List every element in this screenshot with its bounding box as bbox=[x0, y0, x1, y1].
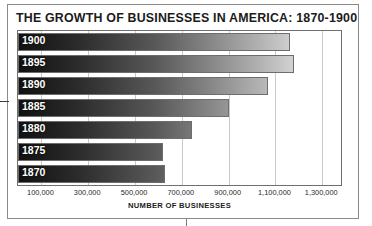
chart-container: THE GROWTH OF BUSINESSES IN AMERICA: 187… bbox=[7, 4, 359, 219]
x-tick-label: 700,000 bbox=[167, 188, 194, 197]
bar-gradient-fill bbox=[19, 100, 229, 116]
bottom-pointer-mark bbox=[186, 219, 187, 226]
bar-row: 1875 bbox=[18, 141, 341, 163]
x-tick-label: 500,000 bbox=[121, 188, 148, 197]
bar-category-label: 1895 bbox=[22, 53, 45, 71]
x-axis-title: NUMBER OF BUSINESSES bbox=[17, 201, 342, 210]
bar-gradient-fill bbox=[19, 78, 268, 94]
bar-row: 1900 bbox=[18, 31, 341, 53]
bar-category-label: 1900 bbox=[22, 31, 45, 49]
chart-title: THE GROWTH OF BUSINESSES IN AMERICA: 187… bbox=[16, 11, 352, 31]
bar-row: 1895 bbox=[18, 53, 341, 75]
x-tick-label: 100,000 bbox=[27, 188, 54, 197]
bar-row: 1885 bbox=[18, 97, 341, 119]
bar-gradient-fill bbox=[19, 56, 294, 72]
bar-category-label: 1875 bbox=[22, 141, 45, 159]
bar-category-label: 1880 bbox=[22, 119, 45, 137]
bar bbox=[18, 77, 268, 95]
plot-area: 1900189518901885188018751870 bbox=[17, 30, 342, 186]
x-axis-tick-labels: 100,000300,000500,000700,000900,0001,100… bbox=[17, 188, 342, 202]
bar-gradient-fill bbox=[19, 34, 290, 50]
x-tick-label: 900,000 bbox=[214, 188, 241, 197]
x-tick-label: 1,300,000 bbox=[305, 188, 338, 197]
bar-row: 1870 bbox=[18, 163, 341, 185]
bar bbox=[18, 55, 294, 73]
x-tick-label: 1,100,000 bbox=[258, 188, 291, 197]
bar-row: 1890 bbox=[18, 75, 341, 97]
x-tick-label: 300,000 bbox=[74, 188, 101, 197]
bar-category-label: 1885 bbox=[22, 97, 45, 115]
bar-category-label: 1890 bbox=[22, 75, 45, 93]
bar bbox=[18, 99, 229, 117]
bar-category-label: 1870 bbox=[22, 163, 45, 181]
bar-series: 1900189518901885188018751870 bbox=[18, 31, 341, 185]
left-edge-tick-mark bbox=[0, 101, 9, 102]
bar-row: 1880 bbox=[18, 119, 341, 141]
bar bbox=[18, 33, 290, 51]
